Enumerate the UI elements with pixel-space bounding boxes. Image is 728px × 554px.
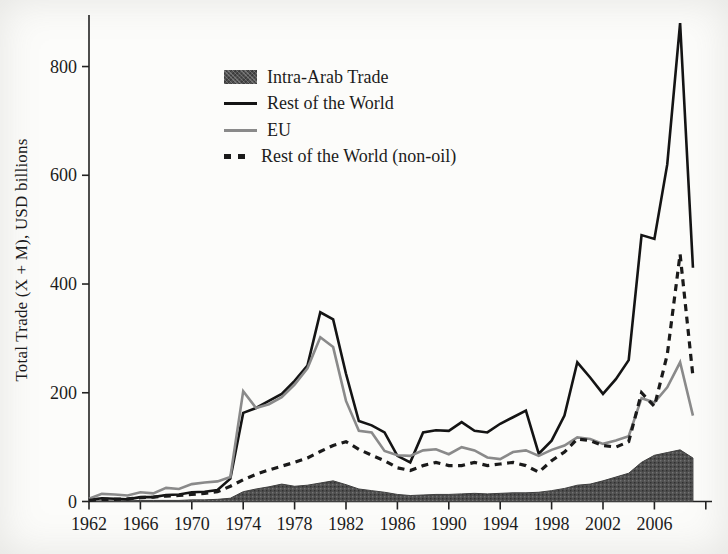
y-tick-label: 0 <box>68 492 77 512</box>
x-tick-label: 1974 <box>225 514 261 534</box>
x-tick-label: 2006 <box>636 514 672 534</box>
legend-item-rest-of-the-world: Rest of the World <box>224 95 456 113</box>
y-tick-label: 200 <box>50 383 77 403</box>
dashed-line-swatch <box>224 154 251 159</box>
series-line-rest-of-the-world-non-oil <box>89 254 693 500</box>
legend-label-rest-of-the-world: Rest of the World <box>267 93 394 114</box>
y-tick-label: 400 <box>50 274 77 294</box>
legend: Intra-Arab Trade Rest of the World EU Re… <box>224 68 456 174</box>
solid-gray-line-swatch <box>224 129 257 132</box>
x-tick-label: 1970 <box>174 514 210 534</box>
series-line-eu <box>89 337 693 498</box>
x-tick-label: 2002 <box>585 514 621 534</box>
y-tick-label: 800 <box>50 57 77 77</box>
x-tick-labels: 1962196619701974197819821986199019941998… <box>71 514 672 534</box>
legend-item-intra-arab-trade: Intra-Arab Trade <box>224 68 456 86</box>
chart-page: Total Trade (X + M), USD billions 020040… <box>0 0 728 554</box>
x-tick-label: 1962 <box>71 514 107 534</box>
legend-item-eu: EU <box>224 121 456 139</box>
legend-item-rest-of-the-world-non-oil: Rest of the World (non-oil) <box>224 148 456 166</box>
x-tick-label: 1978 <box>277 514 313 534</box>
x-tick-label: 1982 <box>328 514 364 534</box>
legend-label-eu: EU <box>267 120 291 141</box>
legend-label-intra-arab-trade: Intra-Arab Trade <box>267 67 388 88</box>
legend-label-rest-of-the-world-non-oil: Rest of the World (non-oil) <box>261 146 456 167</box>
x-tick-label: 1998 <box>534 514 570 534</box>
x-tick-label: 1990 <box>431 514 467 534</box>
x-tick-label: 1966 <box>122 514 158 534</box>
y-tick-label: 600 <box>50 165 77 185</box>
x-tick-label: 1986 <box>379 514 415 534</box>
area-fill-swatch <box>224 70 257 84</box>
x-tick-label: 1994 <box>482 514 518 534</box>
y-tick-labels: 0200400600800 <box>50 57 77 512</box>
solid-black-line-swatch <box>224 102 257 105</box>
